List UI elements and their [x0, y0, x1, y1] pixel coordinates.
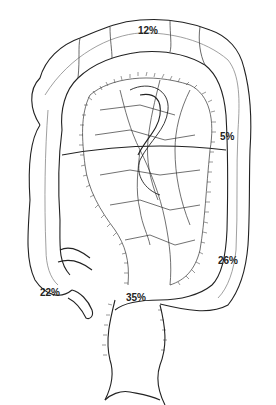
- label-sigmoid: 35%: [126, 293, 146, 303]
- label-ascending: 22%: [40, 288, 60, 298]
- label-transverse: 12%: [138, 26, 158, 36]
- label-splenic-flexure: 5%: [220, 132, 234, 142]
- label-descending: 26%: [218, 256, 238, 266]
- colon-drawing: [0, 0, 276, 405]
- colon-diagram: 12% 5% 22% 26% 35%: [0, 0, 276, 405]
